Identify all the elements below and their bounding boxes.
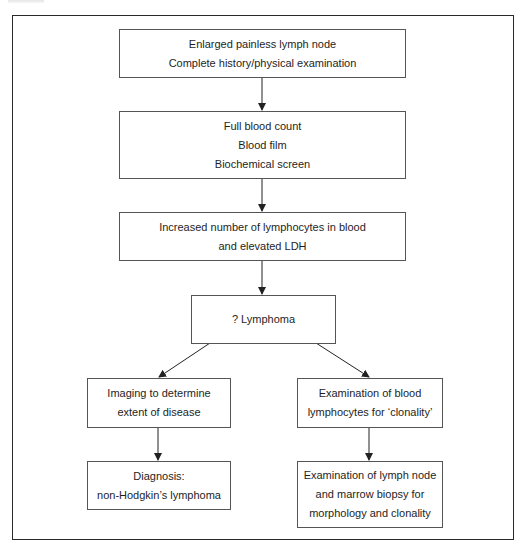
node-text-line: Full blood count	[224, 117, 302, 136]
node-imaging: Imaging to determine extent of disease	[87, 378, 231, 428]
node-text-line: extent of disease	[117, 403, 200, 422]
node-blood-clonality: Examination of blood lymphocytes for ‘cl…	[297, 378, 443, 428]
node-text-line: Complete history/physical examination	[169, 54, 357, 73]
node-text-line: Increased number of lymphocytes in blood	[159, 218, 366, 237]
node-enlarged-lymph-node: Enlarged painless lymph node Complete hi…	[119, 29, 406, 78]
node-text-line: ? Lymphoma	[232, 310, 295, 329]
node-biopsy-examination: Examination of lymph node and marrow bio…	[297, 461, 443, 528]
node-text-line: and marrow biopsy for	[316, 485, 425, 504]
node-blood-tests: Full blood count Blood film Biochemical …	[119, 111, 406, 179]
node-diagnosis-nhl: Diagnosis: non-Hodgkin’s lymphoma	[87, 461, 231, 510]
node-text-line: and elevated LDH	[218, 237, 306, 256]
node-text-line: Examination of lymph node	[304, 466, 437, 485]
node-text-line: Examination of blood	[319, 384, 422, 403]
node-query-lymphoma: ? Lymphoma	[191, 295, 336, 344]
node-text-line: Diagnosis:	[133, 467, 184, 486]
node-text-line: Blood film	[238, 136, 286, 155]
node-text-line: non-Hodgkin’s lymphoma	[97, 486, 221, 505]
node-text-line: Imaging to determine	[107, 384, 210, 403]
node-text-line: lymphocytes for ‘clonality’	[308, 403, 433, 422]
node-lymphocytosis-ldh: Increased number of lymphocytes in blood…	[119, 212, 406, 261]
cropped-caption-fragment	[8, 0, 44, 3]
node-text-line: morphology and clonality	[309, 504, 431, 523]
node-text-line: Enlarged painless lymph node	[189, 35, 336, 54]
node-text-line: Biochemical screen	[215, 155, 310, 174]
